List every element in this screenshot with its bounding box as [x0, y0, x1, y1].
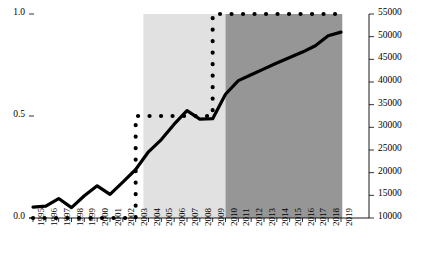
x-axis-tick-label: 2016 [307, 208, 316, 226]
x-axis-tick-label: 2014 [281, 208, 290, 226]
right-axis-tick-label: 35000 [378, 99, 402, 109]
dark-band [226, 14, 343, 218]
right-axis-tick-label: 45000 [378, 53, 402, 63]
right-axis-tick-label: 10000 [378, 212, 402, 222]
x-axis-tick-label: 2008 [204, 208, 213, 226]
left-axis-tick-label: 0.5 [13, 110, 25, 120]
x-axis-tick-label: 2005 [165, 208, 174, 226]
left-axis-tick-label: 0.0 [13, 212, 25, 222]
x-axis-tick-label: 2011 [242, 208, 251, 226]
x-axis-tick-label: 2012 [255, 208, 264, 226]
x-axis-tick-label: 1997 [63, 208, 72, 226]
chart-container: 0.00.51.0 100001500020000250003000035000… [0, 0, 432, 263]
x-axis-tick-label: 2013 [268, 208, 277, 226]
right-axis-tick-label: 50000 [378, 31, 402, 41]
left-axis-tick-label: 1.0 [13, 8, 25, 18]
x-axis-tick-label: 1995 [37, 208, 46, 226]
x-axis-tick-label: 2006 [178, 208, 187, 226]
x-axis-tick-label: 1998 [76, 208, 85, 226]
x-axis-tick-label: 2019 [345, 208, 354, 226]
right-axis-tick-label: 55000 [378, 8, 402, 18]
x-axis-tick-label: 2018 [332, 208, 341, 226]
x-axis-tick-label: 2015 [294, 208, 303, 226]
x-axis-tick-label: 2003 [140, 208, 149, 226]
x-axis-tick-label: 1996 [50, 208, 59, 226]
x-axis-tick-label: 2000 [101, 208, 110, 226]
x-axis-tick-label: 1999 [88, 208, 97, 226]
x-axis-tick-label: 2009 [217, 208, 226, 226]
right-axis-tick-label: 30000 [378, 121, 402, 131]
x-axis-tick-label: 2001 [114, 208, 123, 226]
x-axis-tick-label: 2010 [230, 208, 239, 226]
x-axis-tick-label: 2004 [153, 208, 162, 226]
right-axis-tick-label: 20000 [378, 167, 402, 177]
right-axis-tick-label: 25000 [378, 144, 402, 154]
right-axis-tick-label: 40000 [378, 76, 402, 86]
x-axis-tick-label: 2002 [127, 208, 136, 226]
right-axis-tick-label: 15000 [378, 189, 402, 199]
x-axis-tick-label: 2007 [191, 208, 200, 226]
x-axis-tick-label: 2017 [319, 208, 328, 226]
